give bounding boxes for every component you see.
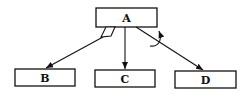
node-c: C: [95, 70, 155, 87]
edge-a-d-arrow: [136, 27, 203, 70]
node-b-label: B: [40, 72, 49, 85]
node-a-label: A: [121, 12, 131, 25]
tree-diagram: A B C D: [0, 0, 246, 100]
node-a: A: [96, 8, 157, 27]
node-d-label: D: [201, 74, 211, 87]
node-c-label: C: [121, 73, 130, 86]
edge-a-b-arrow: [46, 37, 103, 68]
node-d: D: [175, 71, 236, 88]
curved-arrow-icon: [150, 31, 160, 46]
parallelogram-marker-icon: [101, 27, 115, 37]
node-b: B: [15, 69, 75, 86]
